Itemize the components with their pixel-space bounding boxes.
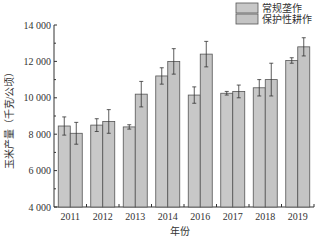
x-tick-label: 2019 xyxy=(288,211,308,222)
bars xyxy=(58,47,310,207)
bar-conservation-2018 xyxy=(265,80,277,207)
bar-conventional-2014 xyxy=(156,76,168,207)
y-tick-label: 10 000 xyxy=(24,92,52,103)
bar-conservation-2016 xyxy=(200,54,212,207)
y-tick-label: 14 000 xyxy=(24,20,52,31)
x-tick-label: 2018 xyxy=(255,211,275,222)
bar-conventional-2011 xyxy=(58,126,70,207)
y-tick-label: 6 000 xyxy=(29,165,52,176)
bar-conventional-2012 xyxy=(91,125,103,207)
x-tick-label: 2014 xyxy=(158,211,178,222)
x-tick-label: 2016 xyxy=(190,211,210,222)
bar-conservation-2019 xyxy=(298,47,310,207)
x-tick-label: 2017 xyxy=(223,211,243,222)
y-tick-label: 8 000 xyxy=(29,129,52,140)
y-tick-label: 4 000 xyxy=(29,202,52,213)
bar-conventional-2019 xyxy=(286,60,298,207)
legend-label-conservation: 保护性耕作 xyxy=(262,13,312,25)
bar-conservation-2014 xyxy=(168,61,180,207)
legend: 常规垄作 保护性耕作 xyxy=(236,2,312,25)
bar-chart: 4 0006 0008 00010 00012 00014 000 201120… xyxy=(0,0,321,246)
x-tick-label: 2012 xyxy=(93,211,113,222)
legend-swatch-conservation xyxy=(236,14,258,24)
bar-conservation-2012 xyxy=(103,121,115,207)
bar-conventional-2016 xyxy=(188,95,200,207)
x-tick-label: 2011 xyxy=(60,211,80,222)
y-ticks: 4 0006 0008 00010 00012 00014 000 xyxy=(24,20,58,213)
bar-conventional-2018 xyxy=(253,88,265,207)
x-axis-title: 年份 xyxy=(170,225,190,237)
legend-swatch-conventional xyxy=(236,3,258,13)
bar-conventional-2017 xyxy=(221,93,233,207)
x-tick-label: 2013 xyxy=(125,211,145,222)
y-axis-title: 玉米产量（千克/公顷） xyxy=(3,67,15,170)
bar-conservation-2013 xyxy=(135,94,147,207)
legend-label-conventional: 常规垄作 xyxy=(262,2,302,14)
bar-conventional-2013 xyxy=(123,127,135,207)
y-tick-label: 12 000 xyxy=(24,56,52,67)
bar-conservation-2017 xyxy=(233,91,245,207)
